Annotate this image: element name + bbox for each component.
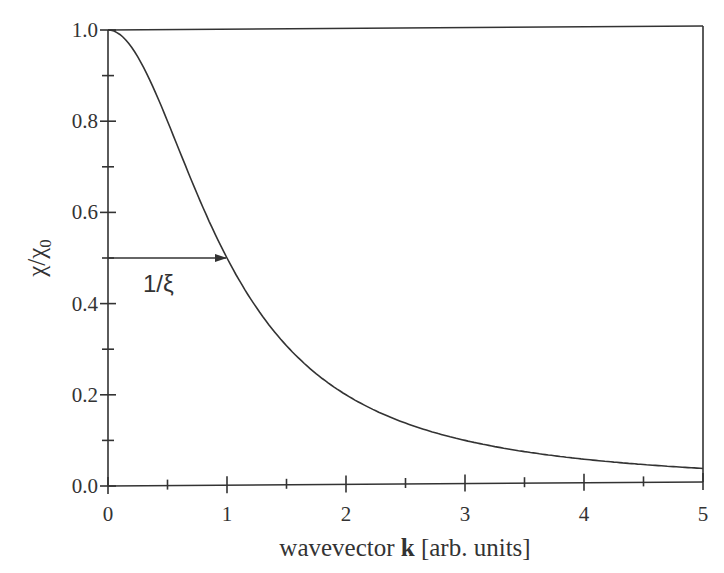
plot-frame — [108, 26, 703, 486]
y-tick-labels: 0.00.20.40.60.81.0 — [72, 18, 99, 498]
x-tick-label: 2 — [341, 502, 352, 526]
axis-ticks — [100, 30, 703, 494]
x-tick-label: 4 — [579, 502, 590, 526]
y-tick-label: 0.0 — [72, 474, 98, 498]
y-axis-title: χ/χ0 — [23, 239, 55, 278]
data-curve — [108, 30, 703, 469]
x-axis-title: wavevector k [arb. units] — [279, 534, 530, 561]
x-tick-label: 1 — [222, 502, 233, 526]
y-tick-label: 1.0 — [72, 18, 98, 42]
x-tick-label: 0 — [103, 502, 114, 526]
y-tick-label: 0.2 — [72, 383, 98, 407]
x-tick-label: 5 — [698, 502, 709, 526]
chart: 012345 0.00.20.40.60.81.0 1/ξ wavevector… — [0, 0, 724, 573]
annotation-inverse-xi: 1/ξ — [143, 270, 174, 297]
y-tick-label: 0.4 — [72, 292, 99, 316]
y-tick-label: 0.8 — [72, 109, 98, 133]
x-tick-labels: 012345 — [103, 502, 709, 526]
x-tick-label: 3 — [460, 502, 471, 526]
y-tick-label: 0.6 — [72, 200, 98, 224]
